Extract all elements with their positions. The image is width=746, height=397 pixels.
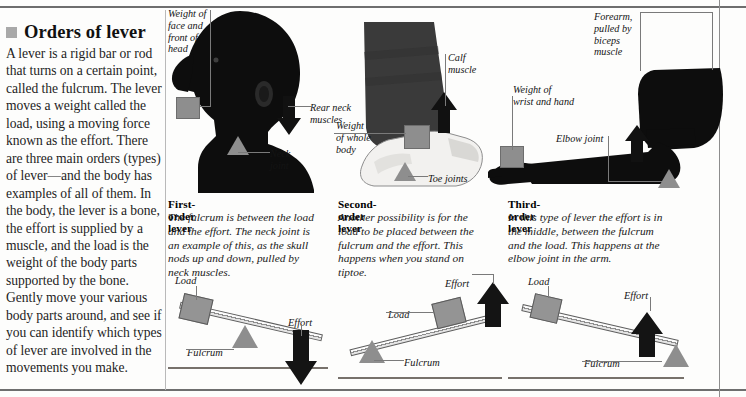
leader-line	[493, 274, 494, 284]
label-toe-joints: Toe joints	[428, 173, 484, 185]
leader-line	[582, 361, 662, 362]
fulcrum-triangle	[663, 344, 689, 367]
leader-line	[374, 360, 404, 361]
effort-arrow-up-icon	[630, 312, 664, 358]
page-title: Orders of lever	[24, 22, 146, 43]
label-weight-of-face-and-front-of-head: Weight of face and front of head	[168, 8, 210, 55]
leader-line	[608, 181, 662, 182]
first-order-load-marker	[176, 97, 200, 119]
arm-and-elbow-silhouette	[488, 60, 724, 192]
leader-line	[640, 12, 712, 13]
leader-line	[548, 286, 549, 298]
second-order-load-marker	[404, 125, 430, 149]
first-order-effort-arrow-icon	[276, 96, 302, 136]
leader-line	[608, 136, 609, 182]
top-rule	[0, 6, 746, 8]
third-order-fulcrum-marker	[658, 169, 680, 188]
leader-line	[196, 286, 197, 300]
article-body: A lever is a rigid bar or rod that turns…	[6, 45, 162, 377]
leader-line	[334, 133, 406, 134]
bottom-rule	[0, 389, 746, 391]
leader-line	[200, 106, 211, 107]
leader-line	[186, 349, 234, 350]
second-order-effort-arrow-icon	[430, 92, 458, 134]
article-text-column: Orders of lever A lever is a rigid bar o…	[6, 22, 162, 377]
label-neck-joint: Neck joint	[270, 148, 308, 172]
leader-line	[386, 312, 434, 313]
caption-body-first-order: The fulcrum is between the load and the …	[168, 211, 318, 280]
label-calf-muscle: Calf muscle	[448, 52, 488, 76]
effort-arrow-up-icon	[476, 282, 510, 328]
square-bullet-icon	[6, 27, 17, 38]
ground-line	[338, 377, 502, 379]
leader-line	[288, 106, 312, 107]
leader-line	[512, 96, 513, 150]
schematic-load-label: Load	[388, 309, 409, 320]
schematic-load-label: Load	[528, 276, 549, 287]
leader-line	[445, 54, 446, 106]
label-weight-of-whole-body: Weight of whole body	[336, 120, 380, 155]
label-elbow-joint: Elbow joint	[556, 133, 606, 145]
label-weight-of-wrist-and-hand: Weight of wrist and hand	[513, 84, 577, 108]
schematic-fulcrum-label: Fulcrum	[584, 358, 620, 369]
leader-line	[640, 13, 641, 71]
schematic-effort-label: Effort	[624, 290, 648, 301]
page-title-row: Orders of lever	[6, 22, 162, 43]
leader-line	[712, 12, 713, 70]
schematic-load-label: Load	[175, 275, 196, 286]
page-root: Orders of lever A lever is a rigid bar o…	[0, 0, 746, 397]
column-divider-1	[165, 10, 166, 390]
effort-arrow-down-icon	[284, 330, 318, 386]
leader-line	[210, 10, 211, 106]
leader-line	[472, 274, 494, 275]
leader-line	[650, 297, 651, 311]
leader-line	[301, 324, 302, 336]
caption-body-third-order: In this type of lever the effort is in t…	[508, 211, 668, 266]
caption-body-second-order: Another possibility is for the load to b…	[338, 211, 490, 280]
load-block	[530, 293, 563, 324]
third-order-effort-arrow-icon	[624, 125, 650, 163]
ground-line	[508, 377, 684, 379]
schematic-effort-label: Effort	[445, 278, 469, 289]
leader-line	[238, 152, 270, 153]
second-order-fulcrum-marker	[394, 162, 416, 181]
fulcrum-triangle	[232, 325, 258, 348]
label-forearm-pulled-by-biceps-muscle: Forearm, pulled by biceps muscle	[594, 11, 640, 58]
leader-line	[408, 176, 428, 177]
schematic-fulcrum-label: Fulcrum	[404, 357, 440, 368]
